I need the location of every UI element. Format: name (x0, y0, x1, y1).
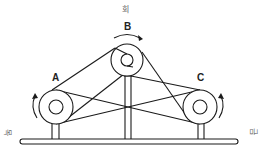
rotation-arrow-b-icon (114, 35, 140, 39)
label-left: 목 (3, 129, 12, 136)
label-b: B (124, 21, 131, 32)
pulley-c (183, 90, 217, 124)
label-right: 금 (249, 128, 258, 135)
base-plate (20, 139, 238, 144)
arrowhead-a-icon (32, 93, 38, 99)
belt-a-c-cross (56, 90, 200, 124)
label-top: 회 (122, 5, 129, 14)
rotation-arrow-c-icon (219, 96, 223, 118)
support-a (52, 123, 59, 139)
label-a: A (52, 72, 59, 83)
belt-b-c-top (131, 76, 200, 90)
arrowhead-c-icon (218, 93, 224, 99)
pulley-diagram: B A C 회 목 금 (0, 0, 266, 162)
support-c (198, 123, 204, 139)
rotation-arrow-a-icon (33, 96, 37, 118)
arrowhead-b-icon (138, 35, 143, 41)
pulley-a (39, 90, 73, 124)
label-c: C (197, 72, 204, 83)
